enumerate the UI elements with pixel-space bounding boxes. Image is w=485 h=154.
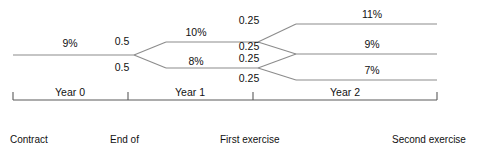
prob-label-up-1: 0.5 — [115, 36, 130, 47]
milestone-contract-entered-into: Contract entered into — [10, 110, 48, 154]
milestone-first-exercise-date: First exercise date (end of year 1) — [220, 110, 279, 154]
branch-ud — [258, 42, 296, 54]
rate-label-root: 9% — [62, 38, 77, 49]
branch-du — [258, 54, 296, 68]
prob-label-ud: 0.25 — [239, 41, 259, 52]
milestone-line: Contract — [10, 134, 48, 146]
prob-label-du: 0.25 — [239, 53, 259, 64]
period-label-year-2: Year 2 — [330, 87, 360, 98]
rate-label-dd: 7% — [364, 65, 379, 76]
rate-label-mid: 9% — [364, 39, 379, 50]
branch-up-1 — [134, 42, 166, 55]
prob-label-dd: 0.25 — [239, 73, 259, 84]
milestone-end-of-year-0: End of year 0 — [110, 110, 139, 154]
prob-label-down-1: 0.5 — [115, 62, 130, 73]
rate-label-up-1: 10% — [185, 27, 206, 38]
milestone-line: First exercise — [220, 134, 279, 146]
branch-dd — [258, 68, 296, 80]
milestone-second-exercise-date: Second exercise date (end of year 2) — [392, 110, 466, 154]
period-label-year-1: Year 1 — [175, 87, 205, 98]
binomial-tree-diagram: 9% 0.5 0.5 10% 8% 0.25 0.25 0.25 0.25 11… — [0, 0, 485, 154]
branch-uu — [258, 24, 296, 42]
rate-label-down-1: 8% — [188, 56, 203, 67]
period-label-year-0: Year 0 — [55, 87, 85, 98]
branch-down-1 — [134, 55, 166, 68]
milestone-line: End of — [110, 134, 139, 146]
rate-label-uu: 11% — [362, 9, 382, 20]
prob-label-uu: 0.25 — [239, 15, 259, 26]
milestone-line: Second exercise — [392, 134, 466, 146]
